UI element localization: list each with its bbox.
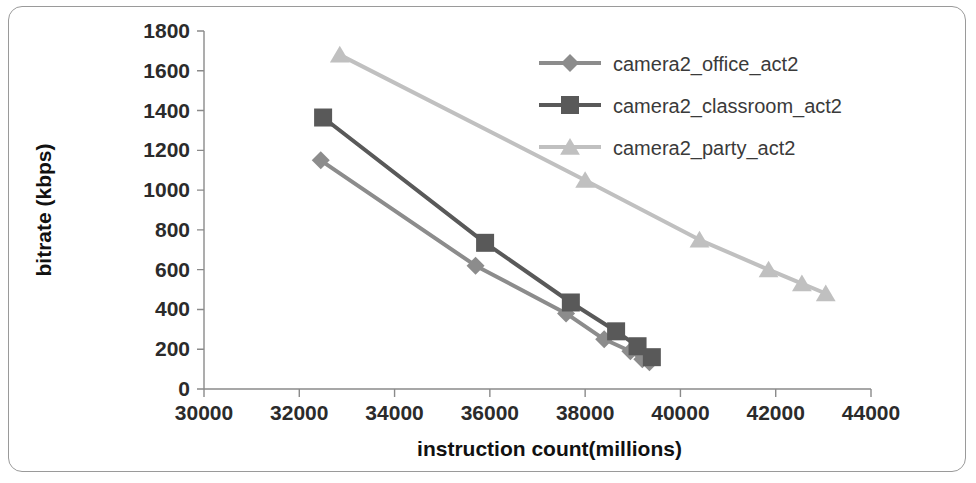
datapoint-camera2_classroom_act2-square-marker <box>643 348 661 366</box>
y-tick-label: 800 <box>155 218 190 241</box>
legend-item-camera2_office_act2[interactable]: camera2_office_act2 <box>539 53 798 76</box>
y-axis-title: bitrate (kbps) <box>32 143 55 276</box>
x-axis-title: instruction count(millions) <box>417 437 682 460</box>
series-line-camera2_office_act2 <box>321 160 650 362</box>
datapoint-camera2_party_act2-triangle-marker <box>816 285 836 302</box>
y-tick-label: 0 <box>178 377 190 400</box>
series-line-camera2_party_act2 <box>340 55 826 294</box>
series-camera2_classroom_act2 <box>314 109 661 367</box>
y-tick-label: 1600 <box>143 59 190 82</box>
y-tick-label: 400 <box>155 297 190 320</box>
legend-item-camera2_classroom_act2[interactable]: camera2_classroom_act2 <box>539 95 842 118</box>
x-tick-label: 36000 <box>461 401 519 424</box>
y-tick-label: 1400 <box>143 99 190 122</box>
y-tick-label: 1800 <box>143 19 190 42</box>
series-camera2_party_act2 <box>330 46 836 301</box>
y-tick-label: 600 <box>155 258 190 281</box>
legend-label-camera2_party_act2: camera2_party_act2 <box>613 137 795 160</box>
y-tick-label: 1200 <box>143 138 190 161</box>
legend-label-camera2_classroom_act2: camera2_classroom_act2 <box>613 95 842 118</box>
x-tick-label: 32000 <box>270 401 328 424</box>
y-tick-label: 200 <box>155 337 190 360</box>
x-tick-label: 34000 <box>365 401 423 424</box>
datapoint-camera2_party_act2-triangle-marker <box>792 275 812 292</box>
legend-item-camera2_party_act2[interactable]: camera2_party_act2 <box>539 137 795 160</box>
legend-marker-camera2_office_act2-diamond-marker <box>561 54 579 72</box>
y-tick-label: 1000 <box>143 178 190 201</box>
datapoint-camera2_classroom_act2-square-marker <box>562 293 580 311</box>
chart-area: 0200400600800100012001400160018003000032… <box>9 7 966 472</box>
x-tick-label: 44000 <box>842 401 900 424</box>
legend-marker-camera2_classroom_act2-square-marker <box>561 96 579 114</box>
datapoint-camera2_classroom_act2-square-marker <box>314 109 332 127</box>
x-tick-label: 40000 <box>651 401 709 424</box>
datapoint-camera2_party_act2-triangle-marker <box>690 231 710 248</box>
legend: camera2_office_act2camera2_classroom_act… <box>539 53 842 160</box>
x-tick-label: 30000 <box>175 401 233 424</box>
datapoint-camera2_classroom_act2-square-marker <box>607 322 625 340</box>
x-tick-label: 38000 <box>556 401 614 424</box>
plot-svg: 0200400600800100012001400160018003000032… <box>9 7 966 472</box>
datapoint-camera2_party_act2-triangle-marker <box>575 171 595 188</box>
x-tick-label: 42000 <box>747 401 805 424</box>
datapoint-camera2_party_act2-triangle-marker <box>759 261 779 278</box>
datapoint-camera2_classroom_act2-square-marker <box>476 234 494 252</box>
datapoint-camera2_party_act2-triangle-marker <box>330 46 350 63</box>
legend-label-camera2_office_act2: camera2_office_act2 <box>613 53 798 76</box>
figure-frame: 0200400600800100012001400160018003000032… <box>8 6 966 472</box>
series-camera2_office_act2 <box>312 151 659 371</box>
